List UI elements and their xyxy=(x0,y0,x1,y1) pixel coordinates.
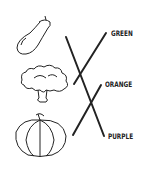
answer-lines xyxy=(66,33,106,136)
pumpkin-icon xyxy=(16,114,66,157)
broccoli-icon xyxy=(21,65,67,102)
label-orange: ORANGE xyxy=(105,80,132,89)
matching-worksheet: GREEN ORANGE PURPLE xyxy=(0,0,157,170)
eggplant-icon xyxy=(17,16,50,54)
worksheet-drawing xyxy=(0,0,157,170)
line-eggplant-purple xyxy=(66,37,104,136)
label-green: GREEN xyxy=(111,29,133,38)
label-purple: PURPLE xyxy=(108,132,133,141)
line-broccoli-green xyxy=(74,33,106,84)
